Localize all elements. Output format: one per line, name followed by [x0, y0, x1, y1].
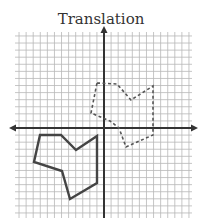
y-axis-up-arrow-icon: [101, 26, 108, 33]
x-axis-left-arrow-icon: [9, 125, 16, 132]
coordinate-grid: [0, 0, 202, 218]
original-shape-solid: [34, 135, 97, 199]
x-axis-right-arrow-icon: [191, 125, 198, 132]
axes: [9, 26, 198, 218]
